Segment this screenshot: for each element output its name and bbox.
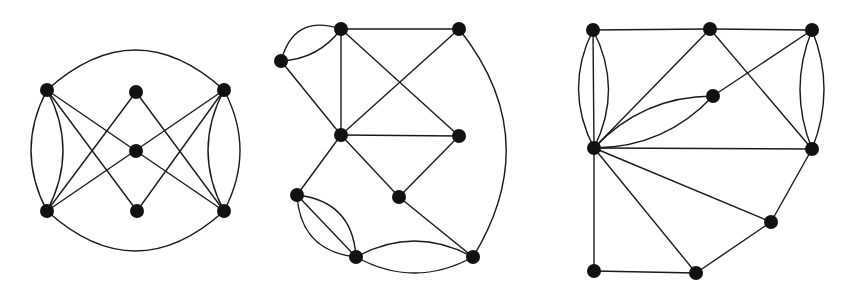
node-Q1 — [586, 23, 600, 37]
edge-Q2-Q5 — [594, 29, 710, 148]
node-G — [217, 204, 231, 218]
node-P4 — [334, 128, 348, 142]
node-Q7 — [764, 215, 778, 229]
edge-Q1-Q5 — [578, 30, 594, 148]
edge-P5-P7 — [399, 136, 459, 197]
node-E — [40, 204, 54, 218]
node-P7 — [392, 190, 406, 204]
node-P6 — [290, 188, 304, 202]
node-B — [129, 85, 143, 99]
node-D — [129, 144, 143, 158]
node-Q9 — [689, 266, 703, 280]
node-P3 — [274, 54, 288, 68]
node-P8 — [349, 250, 363, 264]
edge-P4-P5 — [341, 135, 459, 136]
edge-P2-P9 — [459, 29, 506, 257]
graph-figure — [0, 0, 855, 297]
edge-Q3-Q6 — [800, 30, 812, 149]
node-A — [40, 83, 54, 97]
edge-P4-P6 — [297, 135, 341, 195]
node-P5 — [452, 129, 466, 143]
edge-Q1-Q2 — [593, 29, 710, 30]
edge-P7-P9 — [399, 197, 473, 257]
node-Q8 — [587, 264, 601, 278]
edge-C-G — [224, 90, 240, 211]
node-P2 — [452, 22, 466, 36]
node-P1 — [334, 22, 348, 36]
node-P9 — [466, 250, 480, 264]
edge-B-E — [47, 92, 136, 211]
edge-Q2-Q6 — [710, 29, 812, 149]
node-Q4 — [706, 89, 720, 103]
node-C — [217, 83, 231, 97]
edge-Q4-Q5 — [594, 96, 713, 148]
node-Q2 — [703, 22, 717, 36]
edge-Q8-Q9 — [594, 271, 696, 273]
edge-P8-P9 — [356, 257, 473, 273]
edge-P3-P1 — [281, 29, 341, 61]
edge-Q5-Q9 — [594, 148, 696, 273]
edge-Q4-Q5 — [594, 96, 713, 148]
graph-1 — [31, 50, 240, 251]
edge-D-G — [136, 151, 224, 211]
graph-2 — [274, 22, 506, 273]
edge-Q5-Q6 — [594, 148, 812, 149]
edge-P4-P7 — [341, 135, 399, 197]
node-F — [130, 204, 144, 218]
edge-P3-P4 — [281, 61, 341, 135]
edge-Q1-Q5 — [593, 30, 609, 148]
node-Q3 — [805, 23, 819, 37]
edge-Q3-Q6 — [812, 30, 824, 149]
edge-A-C — [47, 50, 224, 90]
edge-Q5-Q7 — [594, 148, 771, 222]
edge-Q7-Q9 — [696, 222, 771, 273]
node-Q6 — [805, 142, 819, 156]
edge-Q1-Q5 — [593, 30, 594, 148]
edge-Q2-Q3 — [710, 29, 812, 30]
edge-A-E — [31, 90, 47, 211]
edge-P3-P1 — [281, 25, 341, 61]
node-Q5 — [587, 141, 601, 155]
edge-Q3-Q4 — [713, 30, 812, 96]
edge-Q6-Q7 — [771, 149, 812, 222]
edge-A-D — [47, 90, 136, 151]
graph-3 — [578, 22, 824, 280]
